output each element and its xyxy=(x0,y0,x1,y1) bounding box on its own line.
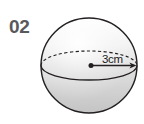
sphere-illustration: 3cm xyxy=(0,0,144,124)
sphere-figure: 02 xyxy=(0,0,144,124)
radius-label: 3cm xyxy=(102,53,123,65)
sphere-center-dot xyxy=(89,63,94,68)
